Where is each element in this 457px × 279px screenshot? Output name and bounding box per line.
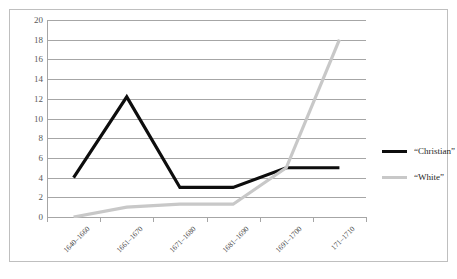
y-axis-tick-label: 12	[17, 94, 43, 103]
x-axis-tick-mark	[153, 218, 154, 222]
x-axis-tick-label: 171–1710	[330, 225, 357, 252]
x-axis-tick-label: 1671–1680	[168, 225, 197, 254]
series-line	[74, 40, 340, 217]
y-axis-tick-label: 16	[17, 55, 43, 64]
x-axis-tick-label: 1661–1670	[115, 225, 144, 254]
y-axis-tick-label: 10	[17, 114, 43, 123]
x-axis-tick-mark	[207, 218, 208, 222]
x-axis-tick-mark	[313, 218, 314, 222]
x-axis-tick-labels: 1640–16601661–16701671–16801681–16901691…	[47, 225, 367, 270]
x-axis-tick-marks	[47, 218, 367, 223]
y-axis-tick-label: 0	[17, 213, 43, 222]
chart-legend: “Christian”“White”	[382, 138, 452, 190]
y-axis-tick-label: 18	[17, 35, 43, 44]
series-line	[74, 97, 340, 188]
y-axis-tick-label: 6	[17, 153, 43, 162]
y-axis-tick-label: 14	[17, 75, 43, 84]
legend-swatch-icon	[382, 150, 407, 153]
x-axis-tick-mark	[260, 218, 261, 222]
y-axis-tick-label: 2	[17, 193, 43, 202]
x-axis-tick-label: 1681–1690	[221, 225, 250, 254]
x-axis-tick-mark	[100, 218, 101, 222]
x-axis-tick-mark	[47, 218, 48, 222]
x-axis-tick-label: 1640–1660	[62, 225, 91, 254]
y-axis-tick-label: 20	[17, 16, 43, 25]
y-axis-tick-label: 4	[17, 173, 43, 182]
chart-frame: 20181614121086420 1640–16601661–16701671…	[9, 9, 448, 262]
series-lines	[47, 20, 367, 218]
y-axis-tick-labels: 20181614121086420	[15, 20, 43, 217]
x-axis-tick-label: 1691–1700	[274, 225, 303, 254]
legend-item[interactable]: “White”	[382, 164, 452, 190]
legend-item[interactable]: “Christian”	[382, 138, 452, 164]
legend-label: “Christian”	[414, 146, 455, 156]
legend-swatch-icon	[382, 176, 407, 179]
legend-label: “White”	[414, 172, 444, 182]
x-axis-tick-mark	[366, 218, 367, 222]
y-axis-tick-label: 8	[17, 134, 43, 143]
